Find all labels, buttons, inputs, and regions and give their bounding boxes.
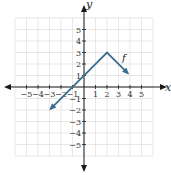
x-axis-label: x [165,81,171,94]
x-tick-label: −4 [32,90,44,99]
function-label-f: f [121,52,128,63]
x-tick-label: 4 [127,90,132,99]
x-tick-label: 1 [93,90,98,99]
y-tick-label: −2 [69,106,81,115]
x-tick-label: 5 [139,90,144,99]
x-tick-label: 2 [104,90,109,99]
y-tick-label: −3 [69,118,81,127]
y-tick-label: −5 [69,141,81,150]
y-tick-label: 3 [76,49,81,58]
axes [4,5,167,172]
y-tick-label: 5 [76,26,81,35]
x-tick-label: −5 [21,90,33,99]
x-tick-label: −3 [44,90,56,99]
x-tick-label: 3 [116,90,121,99]
y-tick-label: 4 [76,37,81,46]
y-axis-label: y [85,0,93,11]
y-tick-label: 2 [76,60,81,69]
y-tick-label: −4 [69,129,81,138]
y-tick-label: −1 [69,95,81,104]
function-graph: −5−4−3−2−112345−5−4−3−2−112345 x y f [0,0,171,175]
